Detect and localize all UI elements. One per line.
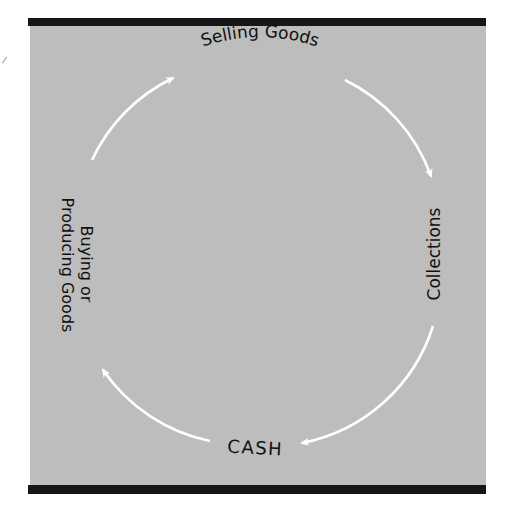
arrow-collections-to-cash <box>302 326 433 443</box>
node-cash: CASH <box>227 436 284 460</box>
node-collections: Collections <box>424 207 444 300</box>
arrow-cash-to-buying <box>103 370 210 441</box>
arrow-selling-to-collections <box>345 80 431 176</box>
arrow-buying-to-selling <box>92 78 173 160</box>
node-buying-line2: Producing Goods <box>58 198 77 333</box>
node-buying-line1: Buying or <box>77 226 96 303</box>
cycle-diagram: Selling Goods Collections CASH Buying or… <box>0 0 508 515</box>
node-selling-goods: Selling Goods <box>198 21 322 50</box>
